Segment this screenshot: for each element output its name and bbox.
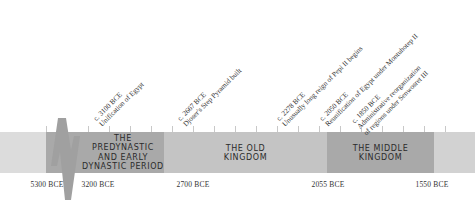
tick xyxy=(340,126,341,132)
tick xyxy=(424,126,425,132)
tick xyxy=(256,126,257,132)
date-label-2700: 2700 BCE xyxy=(176,180,209,189)
date-label-1550: 1550 BCE xyxy=(415,180,448,189)
tick xyxy=(298,126,299,132)
tick xyxy=(445,126,446,132)
tick xyxy=(130,126,131,132)
tick xyxy=(193,126,194,132)
tick xyxy=(319,126,320,132)
timeline-diagram: THE PREDYNASTIC AND EARLY DYNASTIC PERIO… xyxy=(0,0,475,203)
tick xyxy=(382,126,383,132)
tick xyxy=(235,126,236,132)
tick xyxy=(46,126,47,132)
tick xyxy=(151,126,152,132)
tick xyxy=(172,126,173,132)
tick xyxy=(214,126,215,132)
date-label-2055: 2055 BCE xyxy=(311,180,344,189)
date-label-5300: 5300 BCE xyxy=(30,180,63,189)
date-label-3200: 3200 BCE xyxy=(81,180,114,189)
tick xyxy=(109,126,110,132)
tick xyxy=(88,126,89,132)
tick xyxy=(277,126,278,132)
tick xyxy=(403,126,404,132)
